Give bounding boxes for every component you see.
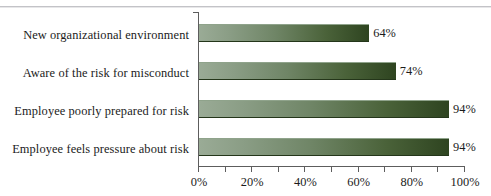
x-tick-label-0: 0% xyxy=(191,175,208,190)
x-axis-tick-60 xyxy=(358,167,359,172)
x-axis-tick-20 xyxy=(251,167,252,172)
x-tick-label-40: 40% xyxy=(294,175,317,190)
scan-artifact-line-secondary xyxy=(0,7,491,8)
x-tick-label-20: 20% xyxy=(241,175,264,190)
bar-value-label-2: 94% xyxy=(449,101,476,117)
category-axis-labels: New organizational environment Aware of … xyxy=(0,12,193,166)
bar-0 xyxy=(199,24,369,42)
bar-3 xyxy=(199,138,449,156)
x-axis-tick-30 xyxy=(278,167,279,172)
y-axis-cap-tick xyxy=(193,12,199,13)
bar-1 xyxy=(199,62,396,80)
category-label-3: Employee feels pressure about risk xyxy=(0,142,189,156)
plot-area: 64% 74% 94% 94% 0% 20% 40% 60% 80% 100% xyxy=(199,12,465,166)
x-tick-label-60: 60% xyxy=(347,175,370,190)
bar-value-label-1: 74% xyxy=(396,63,423,79)
x-axis-tick-100 xyxy=(464,167,465,172)
x-axis-tick-80 xyxy=(411,167,412,172)
bar-2 xyxy=(199,100,449,118)
x-axis-tick-0 xyxy=(198,167,199,172)
bar-value-label-0: 64% xyxy=(369,25,396,41)
x-tick-label-80: 80% xyxy=(400,175,423,190)
category-label-1: Aware of the risk for misconduct xyxy=(0,66,189,80)
x-axis-tick-70 xyxy=(384,167,385,172)
bar-chart: New organizational environment Aware of … xyxy=(0,0,491,196)
category-label-2: Employee poorly prepared for risk xyxy=(0,104,189,118)
x-axis-tick-50 xyxy=(331,167,332,172)
x-tick-label-100: 100% xyxy=(451,175,480,190)
x-axis-tick-40 xyxy=(304,167,305,172)
x-axis-tick-90 xyxy=(437,167,438,172)
category-label-0: New organizational environment xyxy=(0,28,189,42)
bar-value-label-3: 94% xyxy=(449,139,476,155)
x-axis-tick-10 xyxy=(225,167,226,172)
